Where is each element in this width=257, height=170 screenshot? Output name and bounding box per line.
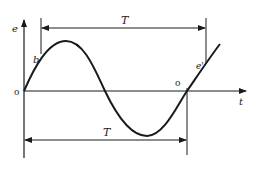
bottom-period-label: T <box>103 126 112 139</box>
diagram-svg: e t o b e' o T T <box>0 0 257 170</box>
point-b-label: b <box>33 54 39 65</box>
origin-label: o <box>14 87 19 97</box>
sine-wave-diagram: e t o b e' o T T <box>0 0 257 170</box>
second-zero-label: o <box>175 78 180 88</box>
sine-curve <box>24 41 220 136</box>
top-period-label: T <box>121 14 130 27</box>
point-e-prime-label: e' <box>196 61 204 71</box>
y-axis-label: e <box>12 23 18 34</box>
x-axis-label: t <box>239 96 244 107</box>
